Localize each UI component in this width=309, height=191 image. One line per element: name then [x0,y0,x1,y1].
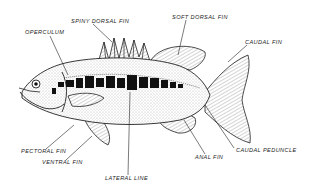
label-operculum: OPERCULUM [25,30,64,36]
label-spiny-dorsal-fin: SPINY DORSAL FIN [71,19,129,25]
label-ventral-fin: VENTRAL FIN [42,160,83,166]
caudal-fin-shape [205,55,250,143]
label-pectoral-fin: PECTORAL FIN [21,149,66,155]
fish-body [22,58,210,125]
label-caudal-peduncle: CAUDAL PEDUNCLE [236,148,297,154]
label-soft-dorsal-fin: SOFT DORSAL FIN [172,15,228,21]
fish-anatomy-diagram: OPERCULUM SPINY DORSAL FIN SOFT DORSAL F… [0,0,309,191]
label-lateral-line: LATERAL LINE [105,176,148,182]
label-anal-fin: ANAL FIN [195,155,223,161]
label-caudal-fin: CAUDAL FIN [245,40,282,46]
